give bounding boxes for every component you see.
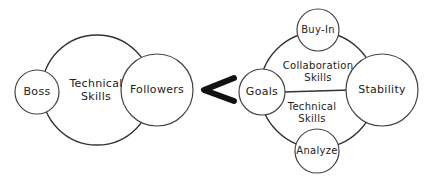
followers-label: Followers xyxy=(130,83,184,96)
diagram-canvas: Technical Skills Boss Followers Collabor… xyxy=(0,0,431,178)
analyze-node: Analyze xyxy=(295,129,339,173)
boss-node: Boss xyxy=(15,70,59,114)
buy-in-label: Buy-In xyxy=(301,24,335,35)
stability-node: Stability xyxy=(346,54,418,126)
collaboration-label: Collaboration xyxy=(283,60,354,71)
right-group: Collaboration Skills Technical Skills Bu… xyxy=(239,9,418,173)
left-skills-label: Skills xyxy=(81,90,111,103)
goals-node: Goals xyxy=(239,69,285,115)
collaboration-skills-label: Skills xyxy=(304,72,331,83)
right-skills-label: Skills xyxy=(298,113,325,124)
boss-label: Boss xyxy=(24,85,51,98)
followers-node: Followers xyxy=(121,54,193,126)
divider-line xyxy=(283,90,350,92)
buy-in-node: Buy-In xyxy=(297,9,339,51)
less-than-arrow-icon xyxy=(204,78,234,101)
left-group: Technical Skills Boss Followers xyxy=(15,35,193,145)
goals-label: Goals xyxy=(246,85,278,98)
analyze-label: Analyze xyxy=(296,145,338,156)
stability-label: Stability xyxy=(358,83,406,96)
right-technical-label: Technical xyxy=(287,101,337,112)
left-technical-label: Technical xyxy=(68,77,122,90)
